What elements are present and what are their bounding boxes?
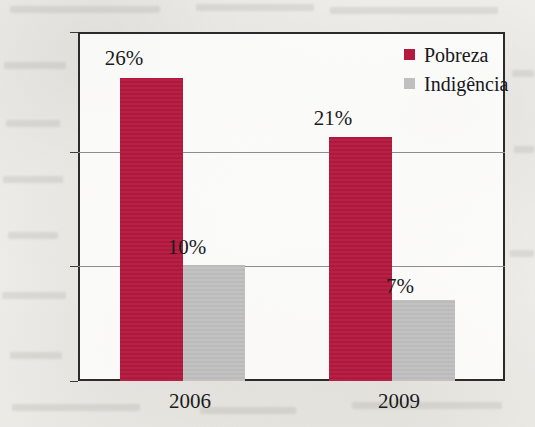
- legend-swatch-indigencia: [404, 78, 415, 89]
- bar-value-pobreza-2006: 26%: [90, 46, 158, 71]
- legend-label-pobreza: Pobreza: [424, 45, 488, 65]
- legend-item-pobreza[interactable]: Pobreza: [404, 40, 508, 69]
- x-axis-label-2009: 2009: [354, 389, 444, 414]
- y-axis-tick-mark-0: [70, 381, 78, 382]
- bar-indigencia-2006[interactable]: [183, 265, 245, 381]
- bar-value-indigencia-2006: 10%: [153, 235, 221, 260]
- bar-pobreza-2006[interactable]: [120, 78, 183, 381]
- legend-swatch-pobreza: [404, 49, 415, 60]
- bar-value-pobreza-2009: 21%: [299, 106, 367, 131]
- bar-indigencia-2009[interactable]: [392, 300, 455, 381]
- chart-legend: Pobreza Indigência: [404, 40, 508, 98]
- y-axis-tick-mark-20: [70, 152, 78, 153]
- y-axis-tick-mark-30: [70, 32, 78, 33]
- bar-pobreza-2009[interactable]: [329, 137, 392, 381]
- x-axis-label-2006: 2006: [145, 389, 235, 414]
- legend-label-indigencia: Indigência: [424, 74, 508, 94]
- legend-item-indigencia[interactable]: Indigência: [404, 69, 508, 98]
- bar-chart-figure: 30% 20% 10% 0% 26% 10% 21% 7% 2006 2009 …: [0, 0, 535, 427]
- y-axis-tick-mark-10: [70, 266, 78, 267]
- bar-value-indigencia-2009: 7%: [370, 274, 430, 299]
